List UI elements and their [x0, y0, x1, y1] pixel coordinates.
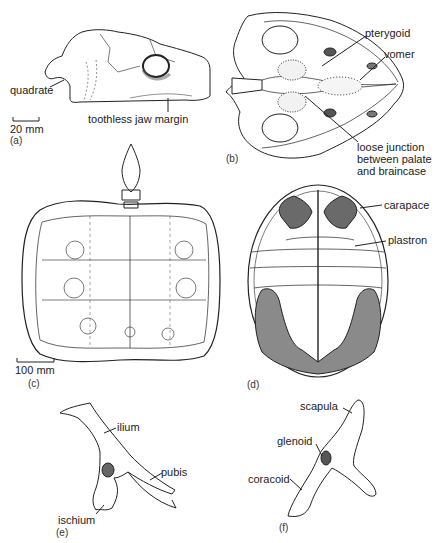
panel-label-c: (c): [28, 378, 40, 389]
panel-label-f: (f): [279, 522, 288, 533]
label-loose-junction-3: and braincase: [357, 165, 426, 177]
label-coracoid: coracoid: [248, 473, 290, 485]
label-pterygoid: pterygoid: [365, 27, 410, 39]
figure-drawings: [0, 0, 443, 543]
label-pubis: pubis: [161, 466, 187, 478]
label-toothless-jaw-margin: toothless jaw margin: [88, 113, 188, 125]
panel-label-e: (e): [56, 527, 68, 538]
label-scapula: scapula: [300, 400, 338, 412]
pelvic-girdle-drawing: [60, 403, 176, 514]
label-glenoid: glenoid: [277, 435, 312, 447]
label-loose-junction-2: between palate: [357, 153, 432, 165]
panel-label-b: (b): [226, 153, 238, 164]
shell-ventral-drawing: [248, 185, 388, 377]
skull-lateral-drawing: [13, 30, 210, 121]
label-vomer: vomer: [384, 48, 415, 60]
pectoral-girdle-drawing: [288, 400, 376, 517]
label-plastron: plastron: [388, 234, 427, 246]
scale-bar-20mm: 20 mm: [10, 123, 44, 135]
label-quadrate: quadrate: [10, 84, 53, 96]
label-carapace: carapace: [384, 199, 429, 211]
label-ischium: ischium: [58, 514, 95, 526]
panel-label-a: (a): [10, 135, 22, 146]
panel-label-d: (d): [247, 379, 259, 390]
carapace-dorsal-drawing: [17, 144, 220, 362]
scale-bar-100mm: 100 mm: [15, 364, 55, 376]
label-ilium: ilium: [117, 421, 140, 433]
label-loose-junction-1: loose junction: [357, 141, 424, 153]
